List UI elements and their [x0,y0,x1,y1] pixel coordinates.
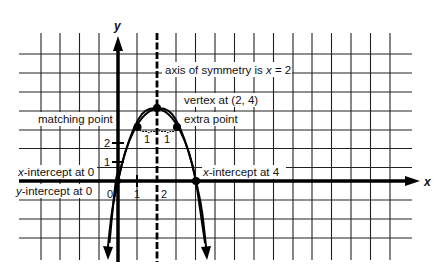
x-tick-1: 1 [134,188,140,200]
distance-right-label: 1 [164,133,170,145]
origin-label: 0 [107,188,113,200]
y-axis-label: y [113,19,122,33]
parabola-diagram: x y 1 [0,0,438,272]
vertex-point [153,104,161,112]
x-tick-2: 2 [161,188,167,200]
y-tick-2: 2 [104,137,110,149]
origin-point [115,178,121,184]
x-intercept-4-label: x-intercept at 4 [202,166,280,178]
extra-point-label: extra point [184,113,239,125]
y-tick-1: 1 [104,156,110,168]
x-axis-label: x [423,175,432,189]
x-intercept-4-point [192,177,200,185]
distance-left-label: 1 [144,133,150,145]
vertex-label: vertex at (2, 4) [184,94,258,106]
curve-arrow-left [103,246,113,260]
y-intercept-0-label: y-intercept at 0 [15,185,92,197]
curve-arrow-right [201,246,211,260]
x-intercept-0-label: x-intercept at 0 [17,166,94,178]
matching-point-label: matching point [38,113,114,125]
axis-of-symmetry-label: axis of symmetry is x = 2 [165,64,291,76]
extra-point [173,123,181,131]
